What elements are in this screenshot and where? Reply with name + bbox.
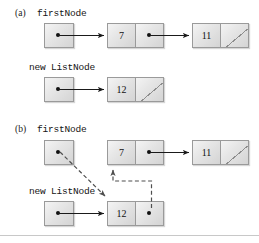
firstNode-pointer-cell-b — [45, 141, 73, 164]
node-11-value-b: 11 — [202, 148, 212, 158]
node-7-box-a: 7 — [107, 23, 164, 48]
pointer-dot-icon — [147, 150, 151, 154]
node-12-box-b: 12 — [107, 201, 164, 226]
new-listnode-pointer-cell-b — [45, 202, 73, 225]
node-12-pointer-cell-b — [135, 202, 163, 225]
node-11-null-pointer-cell-a — [220, 24, 248, 47]
part-a-label: (a) — [15, 8, 26, 18]
node-11-value-a: 11 — [202, 31, 212, 41]
node-7-pointer-cell-b — [135, 141, 163, 164]
firstNode-reference-box-a — [44, 23, 74, 48]
node-11-data-cell-b: 11 — [193, 141, 220, 164]
node-11-box-b: 11 — [192, 140, 249, 165]
new-listnode-reference-box-a — [44, 77, 74, 102]
firstNode-pointer-cell-a — [45, 24, 73, 47]
node-11-null-pointer-cell-b — [220, 141, 248, 164]
firstNode-reference-box-b — [44, 140, 74, 165]
node-12-data-cell-b: 12 — [108, 202, 135, 225]
figure-divider-rule — [0, 235, 259, 236]
node-7-value-b: 7 — [119, 148, 124, 158]
node-7-data-cell-b: 7 — [108, 141, 135, 164]
pointer-dot-icon — [147, 33, 151, 37]
node-7-box-b: 7 — [107, 140, 164, 165]
linked-list-insertion-figure: (a) firstNode 7 11 new ListNode 12 — [0, 0, 259, 243]
null-slash-icon — [221, 141, 248, 164]
pointer-dot-icon — [56, 87, 60, 91]
node-7-value-a: 7 — [119, 31, 124, 41]
pointer-dot-icon — [56, 211, 60, 215]
null-slash-icon — [136, 78, 163, 101]
new-listnode-label-a: new ListNode — [29, 62, 95, 73]
pointer-dot-icon — [56, 33, 60, 37]
pointer-dot-icon — [56, 150, 60, 154]
node-7-data-cell-a: 7 — [108, 24, 135, 47]
first-node-label-a: firstNode — [37, 8, 87, 19]
node-12-value-b: 12 — [117, 209, 127, 219]
node-11-data-cell-a: 11 — [193, 24, 220, 47]
new-listnode-label-b: new ListNode — [29, 186, 95, 197]
node-12-value-a: 12 — [117, 85, 127, 95]
null-slash-icon — [221, 24, 248, 47]
node-7-pointer-cell-a — [135, 24, 163, 47]
new-listnode-pointer-cell-a — [45, 78, 73, 101]
pointer-dot-icon — [147, 211, 151, 215]
node-12-data-cell-a: 12 — [108, 78, 135, 101]
node-12-null-pointer-cell-a — [135, 78, 163, 101]
new-listnode-reference-box-b — [44, 201, 74, 226]
node-12-box-a: 12 — [107, 77, 164, 102]
node-11-box-a: 11 — [192, 23, 249, 48]
part-b-label: (b) — [15, 124, 26, 134]
first-node-label-b: firstNode — [37, 124, 87, 135]
